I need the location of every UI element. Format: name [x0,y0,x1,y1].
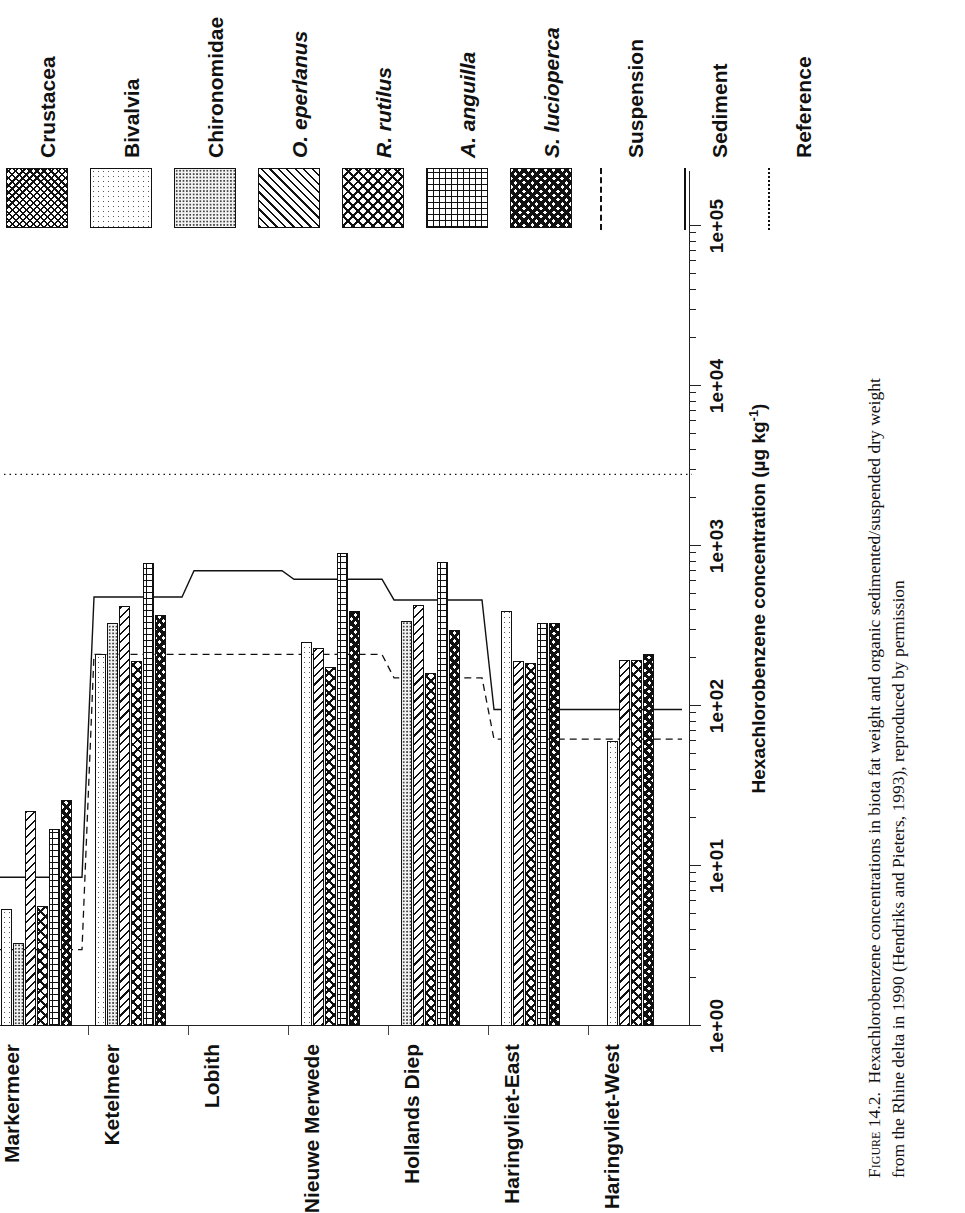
plot-area: Hexachlorobenzene concentration (µg kg-1… [0,166,786,1026]
axis-tick-minor [690,433,696,434]
bar [537,623,548,1026]
bar [413,605,424,1026]
axis-tick-minor [690,552,696,553]
caption-line-1: Hexachlorobenzene concentrations in biot… [864,378,884,1083]
axis-tick-minor [690,949,696,950]
bar [13,943,24,1026]
bar [301,642,312,1026]
bar [61,800,72,1026]
legend-label: Chironomidae [204,17,228,158]
bar [525,663,536,1026]
category-label: Hollands Diep [400,1044,424,1184]
axis-tick-minor [690,929,696,930]
axis-tick-minor [690,581,696,582]
legend-label: O. eperlanus [288,31,312,158]
axis-tick-label: 1e+03 [706,519,728,573]
axis-tick-minor [690,421,696,422]
bar [619,660,630,1026]
axis-tick-minor [690,730,696,731]
axis-tick-minor [690,289,696,290]
bar [325,667,336,1026]
bar [643,654,654,1026]
bar [337,553,348,1026]
axis-tick-major [690,865,701,866]
bar [119,606,130,1026]
axis-tick-minor [690,753,696,754]
legend-label: Suspension [624,39,648,158]
axis-tick-minor [690,890,696,891]
bar [513,661,524,1026]
caption-line-2: from the Rhine delta in 1990 (Hendriks a… [888,580,908,1178]
axis-tick-major [690,545,701,546]
axis-tick-minor [690,250,696,251]
axis-tick-minor [690,789,696,790]
axis-tick-minor [690,901,696,902]
bar [95,654,106,1026]
bar [631,660,642,1026]
axis-tick-minor [690,721,696,722]
legend-label: Sediment [708,63,732,158]
axis-tick-minor [690,410,696,411]
axis-tick-major [690,1025,701,1026]
value-axis-title: Hexachlorobenzene concentration (µg kg-1… [746,171,770,1026]
axis-tick-minor [690,337,696,338]
bar [501,611,512,1026]
axis-tick-label: 1e+05 [706,199,728,253]
category-label: Nieuwe Merwede [300,1044,324,1213]
axis-tick-minor [690,561,696,562]
category-tick [488,1026,489,1035]
axis-tick-label: 1e+04 [706,359,728,413]
figure-number: Figure 14.2. [864,1092,884,1178]
axis-tick-label: 1e+00 [706,999,728,1053]
bar [49,829,60,1026]
category-tick [288,1026,289,1035]
category-label: Lobith [200,1044,224,1108]
bar [1,909,12,1026]
chart-stage: Hexachlorobenzene concentration (µg kg-1… [0,166,786,1026]
bar [607,742,618,1027]
legend-label: Bivalvia [120,79,144,158]
legend-label: R. rutilus [372,67,396,158]
bar [437,562,448,1026]
bar [25,811,36,1026]
bar [313,648,324,1026]
axis-tick-minor [690,609,696,610]
axis-tick-major [690,385,701,386]
axis-tick-minor [690,913,696,914]
bar [155,615,166,1026]
axis-tick-label: 1e+02 [706,679,728,733]
bar [143,563,154,1026]
bar [401,621,412,1026]
bar [549,623,560,1026]
bar [131,661,142,1026]
bar [449,630,460,1026]
bar [425,673,436,1026]
category-tick [388,1026,389,1035]
axis-tick-minor [690,309,696,310]
axis-tick-minor [690,449,696,450]
axis-tick-minor [690,872,696,873]
axis-tick-minor [690,593,696,594]
legend-label: A. anguilla [456,52,480,158]
axis-tick-minor [690,401,696,402]
category-label: Haringvliet-East [500,1044,524,1204]
category-tick [188,1026,189,1035]
axis-tick-minor [690,881,696,882]
category-label: Ketelmeer [100,1044,124,1146]
axis-tick-minor [690,392,696,393]
axis-tick-minor [690,657,696,658]
axis-tick-minor [690,241,696,242]
bar [37,906,48,1026]
axis-tick-major [690,705,701,706]
category-tick [588,1026,589,1035]
axis-tick-minor [690,469,696,470]
axis-tick-minor [690,977,696,978]
axis-tick-minor [690,741,696,742]
axis-tick-minor [690,261,696,262]
axis-tick-minor [690,273,696,274]
axis-tick-label: 1e+01 [706,839,728,893]
bar [349,611,360,1026]
axis-tick-minor [690,497,696,498]
axis-tick-major [690,225,701,226]
